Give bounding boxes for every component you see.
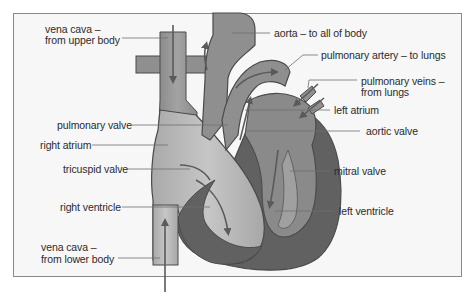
label-pulmonary-artery: pulmonary artery – to lungs [321, 49, 446, 61]
label-pulmonary-veins-sub: from lungs [361, 86, 409, 98]
label-left-ventricle: left ventricle [339, 205, 394, 217]
label-aortic-valve: aortic valve [366, 125, 418, 137]
label-tricuspid-valve: tricuspid valve [63, 163, 128, 175]
label-left-atrium: left atrium [334, 104, 379, 116]
label-pulmonary-valve: pulmonary valve [57, 119, 132, 131]
label-aorta: aorta – to all of body [274, 27, 367, 39]
label-vena-cava-lower: vena cava – [41, 241, 97, 253]
label-vena-cava-lower-sub: from lower body [41, 253, 114, 265]
label-right-ventricle: right ventricle [60, 201, 121, 213]
label-right-atrium: right atrium [40, 139, 91, 151]
label-mitral-valve: mitral valve [334, 165, 386, 177]
label-vena-cava-upper-sub: from upper body [45, 34, 120, 46]
